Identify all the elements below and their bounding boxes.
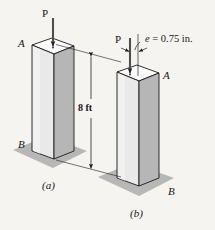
column-a	[32, 38, 74, 159]
column-a-right-face	[54, 46, 74, 159]
dimension-label: 8 ft	[78, 103, 92, 113]
point-label-a-bottom: B	[18, 139, 25, 150]
eccentricity-value: 0.75 in.	[161, 33, 193, 44]
load-label-a: P	[42, 8, 48, 19]
point-label-b-top: A	[163, 70, 170, 81]
load-arrow-a	[52, 18, 54, 48]
column-b-right-face	[139, 73, 159, 186]
eccentricity-label: e = 0.75 in.	[145, 34, 193, 45]
point-label-a-top: A	[18, 38, 25, 49]
load-label-b: P	[115, 34, 121, 45]
figure-container: P A B (a) P e = 0.75 in. A B (b) 8 ft	[0, 0, 215, 230]
subfigure-caption-b: (b)	[130, 208, 143, 219]
subfigure-caption-a: (a)	[42, 180, 55, 191]
column-b	[117, 65, 159, 186]
extension-line-bottom	[56, 160, 121, 177]
point-label-b-bottom: B	[168, 186, 175, 197]
